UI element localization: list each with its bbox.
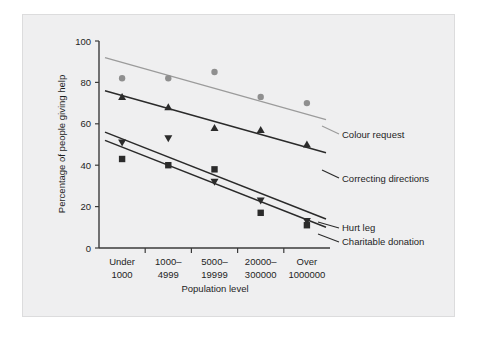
y-axis-title: Percentage of people giving help: [56, 75, 67, 213]
y-tick-label: 60: [80, 118, 91, 129]
x-category-label: 19999: [201, 269, 227, 280]
data-point-triangle-up: [303, 141, 311, 148]
data-point-triangle-up: [257, 126, 265, 133]
chart-page: 020406080100 Under10001000–49995000–1999…: [0, 0, 480, 340]
data-point-square: [119, 156, 125, 162]
legend-label-correcting-directions: Correcting directions: [342, 173, 429, 184]
x-category-label: Over: [297, 256, 318, 267]
data-point-square: [304, 222, 310, 228]
data-point-square: [165, 162, 171, 168]
leader-correcting-directions: [322, 170, 339, 178]
x-category-label: 1000000: [288, 269, 325, 280]
fit-line-series-1: [105, 91, 326, 153]
data-point-triangle-up: [211, 124, 219, 131]
fit-line-series-2: [105, 132, 326, 219]
y-tick-label: 40: [80, 160, 91, 171]
leader-charitable-donation: [318, 234, 339, 242]
fit-line-group: [105, 58, 326, 228]
data-point-circle: [165, 75, 171, 81]
x-category-label: 1000–: [155, 256, 182, 267]
y-tick-label: 100: [75, 36, 91, 47]
y-tick-label: 0: [86, 243, 91, 254]
data-point-square: [211, 166, 217, 172]
y-tick-group: 020406080100: [75, 36, 99, 254]
data-point-circle: [211, 69, 217, 75]
data-point-triangle-up: [164, 103, 172, 110]
x-category-label: 300000: [245, 269, 277, 280]
x-category-label: Under: [109, 256, 135, 267]
data-point-circle: [119, 75, 125, 81]
y-tick-label: 20: [80, 201, 91, 212]
x-axis-title: Population level: [181, 283, 248, 294]
chart-canvas: 020406080100 Under10001000–49995000–1999…: [0, 0, 480, 340]
x-category-label-group: Under10001000–49995000–1999920000–300000…: [109, 256, 325, 280]
legend-label-colour-request: Colour request: [342, 129, 405, 140]
legend-label-charitable-donation: Charitable donation: [342, 236, 424, 247]
x-tick-group: [145, 248, 284, 253]
leader-colour-request: [322, 126, 339, 134]
x-category-label: 20000–: [245, 256, 277, 267]
x-category-label: 1000: [112, 269, 133, 280]
y-tick-label: 80: [80, 77, 91, 88]
data-point-square: [258, 210, 264, 216]
x-category-label: 5000–: [201, 256, 228, 267]
data-point-circle: [304, 100, 310, 106]
data-point-triangle-down: [164, 135, 172, 142]
x-category-label: 4999: [158, 269, 179, 280]
fit-line-series-0: [105, 58, 326, 120]
data-point-circle: [258, 94, 264, 100]
legend-label-hurt-leg: Hurt leg: [342, 222, 375, 233]
